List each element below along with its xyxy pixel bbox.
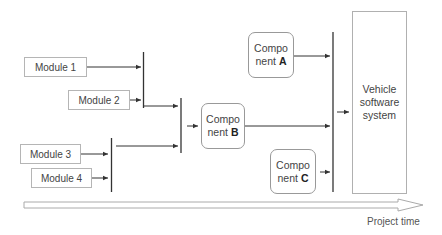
module-3-label: Module 3 [30,149,71,160]
component-b-line2: nent B [208,126,239,139]
component-c-box: Compo nent C [270,149,316,194]
vehicle-line3: system [363,109,396,122]
component-c-line2: nent C [278,172,309,185]
module-2-label: Module 2 [78,95,119,106]
module-3-box: Module 3 [20,144,81,164]
module-2-box: Module 2 [68,90,130,110]
vehicle-line1: Vehicle [363,83,397,96]
component-c-letter: C [301,172,309,184]
component-a-box: Compo nent A [248,32,294,78]
project-time-label: Project time [367,216,420,227]
project-time-arrow [24,199,423,211]
vehicle-line2: software [360,96,400,109]
module-1-box: Module 1 [24,57,87,77]
module-4-box: Module 4 [31,168,92,188]
component-b-letter: B [231,126,239,138]
component-a-letter: A [279,55,287,67]
component-a-line1: Compo [254,42,288,55]
component-c-line1: Compo [276,159,310,172]
module-4-label: Module 4 [41,173,82,184]
vehicle-software-system-box: Vehicle software system [352,11,407,194]
component-a-line2: nent A [256,55,287,68]
component-b-line1: Compo [206,113,240,126]
component-b-box: Compo nent B [201,103,245,149]
module-1-label: Module 1 [35,62,76,73]
